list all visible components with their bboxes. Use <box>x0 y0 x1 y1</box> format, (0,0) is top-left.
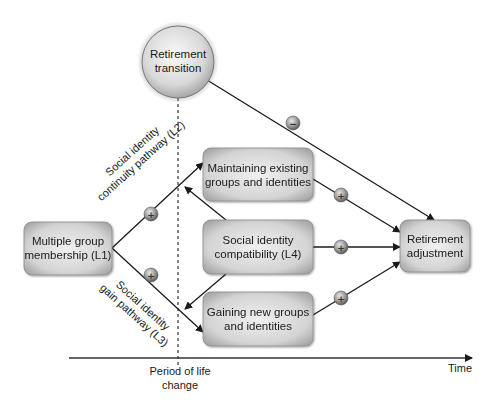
node-l1-line2: membership (L1) <box>25 249 112 261</box>
sign-transition-to-adjustment: − <box>286 116 300 130</box>
node-l4-line1: Social identity <box>223 234 294 246</box>
node-multiple-group-membership: Multiple group membership (L1) <box>24 222 112 275</box>
node-l3-line2: and identities <box>224 320 292 332</box>
sign-l4-to-adjustment-symbol: + <box>337 243 345 253</box>
continuity-pathway-label: Social identity continuity pathway (L2) <box>86 109 187 203</box>
sign-l2-to-adjustment: + <box>334 188 348 202</box>
sign-l1-to-l2: + <box>144 207 158 221</box>
node-adjustment-line1: Retirement <box>407 233 464 245</box>
node-l4-line2: compatibility (L4) <box>215 248 302 260</box>
time-axis-label: Time <box>448 362 472 374</box>
sign-l1-to-l3: + <box>144 268 158 282</box>
sign-l3-to-adjustment-symbol: + <box>337 294 345 304</box>
node-retirement-adjustment: Retirement adjustment <box>400 220 470 272</box>
sign-l2-to-adjustment-symbol: + <box>337 191 345 201</box>
period-label-line1: Period of life <box>149 365 210 377</box>
node-l1-line1: Multiple group <box>32 235 104 247</box>
sign-l1-to-l3-symbol: + <box>147 271 155 281</box>
node-adjustment-line2: adjustment <box>407 247 464 259</box>
period-label-line2: change <box>162 379 198 391</box>
node-gaining-new-groups: Gaining new groups and identities <box>203 292 313 346</box>
node-l2-line1: Maintaining existing <box>207 162 308 174</box>
sign-l3-to-adjustment: + <box>334 291 348 305</box>
sign-transition-to-adjustment-symbol: − <box>289 119 297 129</box>
node-l3-line1: Gaining new groups <box>207 306 310 318</box>
edge-l2-to-adjustment <box>313 179 400 232</box>
sign-l4-to-adjustment: + <box>334 240 348 254</box>
node-maintaining-existing-groups: Maintaining existing groups and identiti… <box>203 148 313 201</box>
sign-l1-to-l2-symbol: + <box>147 210 155 220</box>
node-retirement-transition-line2: transition <box>155 62 202 74</box>
edge-l3-to-adjustment <box>313 262 400 315</box>
node-l2-line2: groups and identities <box>205 176 311 188</box>
diagram-canvas: Retirement transition Multiple group mem… <box>0 0 498 403</box>
node-social-identity-compatibility: Social identity compatibility (L4) <box>203 220 313 274</box>
node-retirement-transition: Retirement transition <box>137 21 219 103</box>
node-retirement-transition-line1: Retirement <box>150 48 207 60</box>
gain-pathway-label: Social identity gain pathway (L3) <box>98 272 180 349</box>
